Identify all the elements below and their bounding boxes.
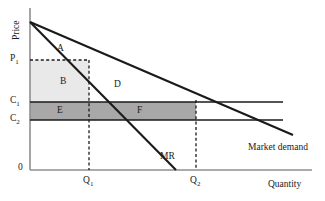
y-tick-c1: C1 [10,96,20,108]
region-label-a: A [57,44,64,54]
y-tick-p1: P1 [10,54,19,66]
region-f-shading [89,102,196,120]
origin-label: 0 [18,163,23,173]
y-tick-c2-subscript: 2 [16,118,20,126]
x-axis-title: Quantity [268,180,301,190]
mr-curve-label: MR [160,152,175,162]
region-label-f: F [137,106,142,116]
x-tick-q2-subscript: 2 [197,180,201,188]
y-axis-title: Price [12,20,22,40]
y-tick-c1-subscript: 1 [16,100,20,108]
region-label-e: E [57,106,63,116]
x-tick-q1-text: Q [83,175,90,185]
region-label-b: B [60,77,66,87]
x-tick-q2: Q2 [190,176,200,188]
x-tick-q2-text: Q [190,175,197,185]
y-tick-c2: C2 [10,114,20,126]
market-demand-label: Market demand [248,143,308,153]
x-tick-q1-subscript: 1 [90,180,94,188]
economics-diagram: Price Quantity 0 P1 C1 C2 Q1 Q2 A B D E … [0,0,325,201]
region-label-d: D [114,80,121,90]
x-tick-q1: Q1 [83,176,93,188]
diagram-canvas [0,0,325,201]
y-tick-p1-subscript: 1 [15,58,19,66]
